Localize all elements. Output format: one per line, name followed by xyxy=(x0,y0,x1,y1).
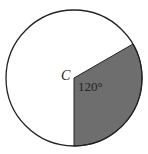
circle-sector-diagram: C 120° xyxy=(0,0,148,154)
angle-label: 120° xyxy=(78,79,103,94)
shaded-sector xyxy=(74,44,142,146)
center-label: C xyxy=(61,68,71,83)
